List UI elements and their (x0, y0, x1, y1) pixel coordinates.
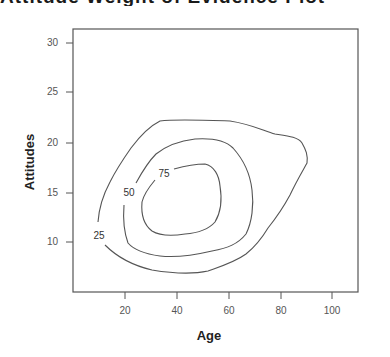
y-tick-20: 20 (47, 137, 59, 148)
plot-frame (73, 29, 358, 292)
y-axis: 30 25 20 15 10 (47, 37, 73, 247)
y-tick-25: 25 (47, 86, 59, 97)
x-tick-80: 80 (275, 305, 287, 316)
contour-label-25: 25 (93, 230, 105, 241)
x-tick-100: 100 (324, 305, 341, 316)
y-tick-30: 30 (47, 37, 59, 48)
x-tick-40: 40 (171, 305, 183, 316)
contour-line-75 (142, 164, 221, 235)
x-axis: 20 40 60 80 100 (119, 292, 340, 316)
x-axis-title: Age (197, 328, 222, 343)
contour-label-50: 50 (123, 187, 135, 198)
x-tick-20: 20 (119, 305, 131, 316)
contour-chart: 30 25 20 15 10 20 40 60 80 100 Age Attit… (0, 0, 390, 357)
x-tick-60: 60 (223, 305, 235, 316)
y-tick-10: 10 (47, 236, 59, 247)
contour-label-75: 75 (158, 168, 170, 179)
y-tick-15: 15 (47, 187, 59, 198)
y-axis-title: Attitudes (22, 134, 37, 190)
